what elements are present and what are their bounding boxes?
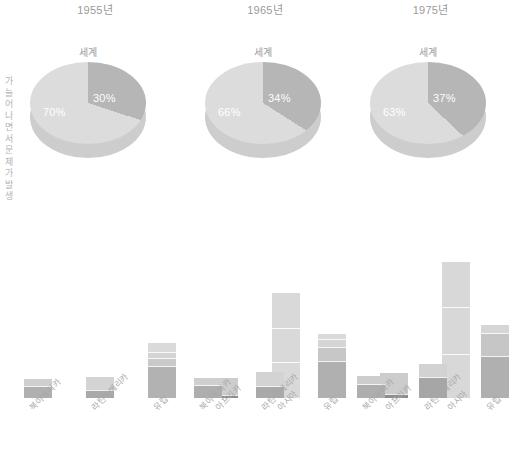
infographic-canvas: 가 늘 어 나 면 서 문 제 가 발 생 1955년세계30%70%북아메리카… [0,0,526,452]
pie-title: 세계 [30,44,146,59]
bar-column [357,138,385,398]
bar-column [419,138,447,398]
bar-유럽 [481,325,509,399]
panel-1965년: 1965년세계34%66%북아메리카라틴아메리카유럽아프리카아시아 [170,0,360,452]
bar-chart: 북아메리카라틴아메리카유럽아프리카아시아 [335,138,526,398]
pie-top-face [30,62,146,144]
pie-value-urban: 34% [268,92,291,104]
pie-value-urban: 30% [93,92,116,104]
bar-column [481,138,509,398]
pie-value-urban: 37% [433,92,456,104]
bar-column [256,138,284,398]
pie-value-rural: 63% [383,106,406,118]
bar-chart: 북아메리카라틴아메리카유럽아프리카아시아 [0,138,190,398]
pie-value-rural: 70% [43,106,66,118]
bar-segment [419,364,447,377]
bar-segment [481,325,509,333]
bar-column [24,138,52,398]
panel-1955년: 1955년세계30%70%북아메리카라틴아메리카유럽아프리카아시아 [0,0,190,452]
pie-top-face [205,62,321,144]
panel-1975년: 1975년세계37%63%북아메리카라틴아메리카유럽아프리카아시아 [335,0,526,452]
year-title: 1965년 [170,1,360,17]
pie-title: 세계 [370,44,486,59]
year-title: 1975년 [335,1,526,17]
bar-segment [481,356,509,398]
bar-chart: 북아메리카라틴아메리카유럽아프리카아시아 [170,138,360,398]
bar-column [194,138,222,398]
pie-top-face [370,62,486,144]
pie-value-rural: 66% [218,106,241,118]
bar-segment [481,333,509,356]
bar-column [86,138,114,398]
year-title: 1955년 [0,1,190,17]
pie-title: 세계 [205,44,321,59]
